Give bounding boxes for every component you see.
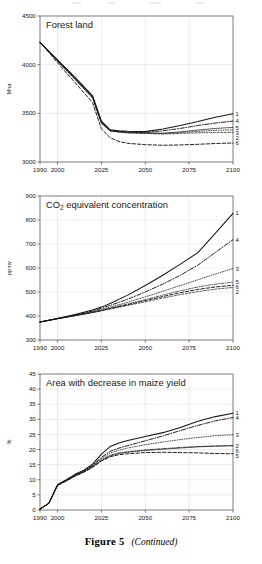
y-tick-label: 25: [29, 431, 36, 438]
x-tick-label: 2025: [95, 514, 109, 521]
x-tick-label: 2100: [226, 344, 240, 351]
series-line-4: [40, 240, 233, 322]
page-top-crop-artifact: [0, 0, 262, 10]
x-tick-label: 2000: [51, 514, 65, 521]
y-tick-label: 35: [29, 400, 36, 407]
x-tick-label: 2025: [95, 344, 109, 351]
series-line-3: [40, 268, 233, 322]
legend: 145326: [236, 111, 240, 146]
legend-label-1: 1: [236, 210, 240, 216]
x-tick-label: 2050: [138, 344, 152, 351]
y-tick-label: 45: [29, 370, 36, 377]
series-line-1: [40, 213, 233, 322]
chart-title: Forest land: [46, 19, 93, 30]
y-axis-label: Mha: [6, 83, 12, 95]
legend-label-4: 4: [236, 415, 240, 421]
legend: 143562: [236, 210, 240, 295]
figure-caption-note: (Continued): [131, 537, 177, 547]
x-tick-label: 2100: [226, 514, 240, 521]
y-tick-label: 4000: [22, 61, 36, 68]
plot-frame: [40, 374, 233, 510]
y-tick-label: 20: [29, 446, 36, 453]
chart-title: CO2 equivalent concentration: [46, 199, 168, 211]
gridlines: [40, 16, 233, 162]
figure-page: 3000350040004500199020002025205020752100…: [0, 0, 262, 564]
series-line-6: [40, 446, 233, 509]
y-tick-label: 500: [25, 288, 36, 295]
series-line-2: [40, 446, 233, 509]
x-tick-label: 2025: [95, 166, 109, 173]
y-tick-label: 4500: [22, 12, 36, 19]
y-tick-label: 700: [25, 240, 36, 247]
figure-caption: Figure 5(Continued): [0, 536, 262, 547]
series-line-3: [40, 435, 233, 509]
y-axis-label: %: [6, 439, 12, 444]
x-tick-label: 2075: [182, 344, 196, 351]
y-tick-label: 400: [25, 312, 36, 319]
chart-area-with-decrease-in-maize-yield: 0510152025303540451990200020252050207521…: [0, 368, 262, 536]
y-tick-label: 3000: [22, 158, 36, 165]
y-tick-label: 600: [25, 264, 36, 271]
chart-co2-equivalent-concentration: 3004005006007008009001990200020252050207…: [0, 190, 262, 368]
y-tick-label: 300: [25, 336, 36, 343]
x-tick-label: 2100: [226, 166, 240, 173]
series-group: [40, 213, 233, 322]
legend-label-2: 2: [236, 289, 240, 295]
y-tick-label: 0: [32, 506, 36, 513]
axis-ticks: 3000350040004500199020002025205020752100: [22, 12, 240, 172]
legend-label-1: 1: [236, 111, 240, 117]
series-line-4: [40, 42, 233, 132]
x-tick-label: 1990: [33, 514, 47, 521]
x-tick-label: 2075: [182, 166, 196, 173]
legend-label-6: 6: [236, 140, 240, 146]
x-tick-label: 2075: [182, 514, 196, 521]
chart-panel-area-with-decrease-in-maize-yield: 0510152025303540451990200020252050207521…: [0, 368, 262, 536]
y-tick-label: 15: [29, 461, 36, 468]
y-tick-label: 3500: [22, 109, 36, 116]
figure-caption-label: Figure 5: [85, 536, 125, 547]
chart-forest-land: 3000350040004500199020002025205020752100…: [0, 10, 262, 190]
y-tick-label: 900: [25, 192, 36, 199]
y-axis-label: ppmv: [6, 261, 12, 275]
legend-label-3: 3: [236, 266, 240, 272]
y-tick-label: 40: [29, 385, 36, 392]
x-tick-label: 2000: [51, 166, 65, 173]
legend-label-4: 4: [236, 118, 240, 124]
series-line-5: [40, 452, 233, 509]
x-tick-label: 2000: [51, 344, 65, 351]
y-tick-label: 800: [25, 216, 36, 223]
y-tick-label: 30: [29, 415, 36, 422]
legend: 143265: [236, 410, 240, 459]
legend-label-5: 5: [236, 453, 240, 459]
plot-frame: [40, 16, 233, 162]
y-tick-label: 10: [29, 476, 36, 483]
series-group: [40, 42, 233, 145]
gridlines: [40, 196, 233, 340]
chart-panel-co2-equivalent-concentration: 3004005006007008009001990200020252050207…: [0, 190, 262, 368]
gridlines: [40, 374, 233, 510]
series-line-2: [40, 287, 233, 322]
x-tick-label: 2050: [138, 166, 152, 173]
legend-label-3: 3: [236, 432, 240, 438]
legend-label-4: 4: [236, 237, 240, 243]
y-tick-label: 5: [32, 491, 36, 498]
axis-ticks: 0510152025303540451990200020252050207521…: [29, 370, 241, 520]
chart-title-tail: equivalent concentration: [64, 199, 168, 210]
chart-panel-forest-land: 3000350040004500199020002025205020752100…: [0, 10, 262, 190]
x-tick-label: 1990: [33, 166, 47, 173]
series-line-4: [40, 418, 233, 510]
x-tick-label: 2050: [138, 514, 152, 521]
x-tick-label: 1990: [33, 344, 47, 351]
series-line-1: [40, 42, 233, 131]
chart-title: Area with decrease in maize yield: [46, 377, 186, 388]
